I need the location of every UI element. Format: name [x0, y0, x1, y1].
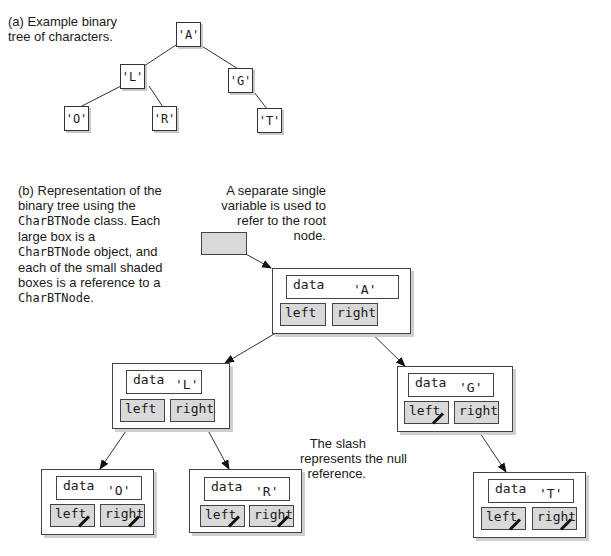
right-reference: right [532, 507, 577, 530]
charbtnode-l: data 'L' left right [112, 363, 230, 429]
right-reference: right [100, 504, 145, 527]
root-reference-variable [201, 232, 247, 255]
right-reference: right [249, 505, 294, 527]
left-reference: left [404, 401, 449, 424]
charbtnode-t: data 'T' left right [473, 472, 586, 538]
left-reference: left [200, 505, 245, 527]
left-reference: left [120, 399, 165, 422]
charbtnode-g: data 'G' left right [397, 366, 513, 432]
left-reference: left [280, 303, 326, 326]
data-field: data 'T' [488, 479, 574, 503]
right-reference: right [170, 399, 215, 422]
data-field: data 'A' [286, 275, 399, 299]
charbtnode-a: data 'A' left right [272, 268, 411, 334]
charbtnode-o: data 'O' left right [41, 469, 154, 535]
left-reference: left [481, 507, 526, 530]
data-field: data 'L' [126, 370, 202, 394]
right-reference: right [454, 401, 499, 424]
left-reference: left [50, 504, 95, 527]
data-field: data 'R' [204, 477, 290, 501]
charbtnode-r: data 'R' left right [189, 469, 302, 533]
data-field: data 'O' [56, 476, 142, 500]
data-field: data 'G' [408, 373, 494, 397]
right-reference: right [332, 303, 378, 326]
